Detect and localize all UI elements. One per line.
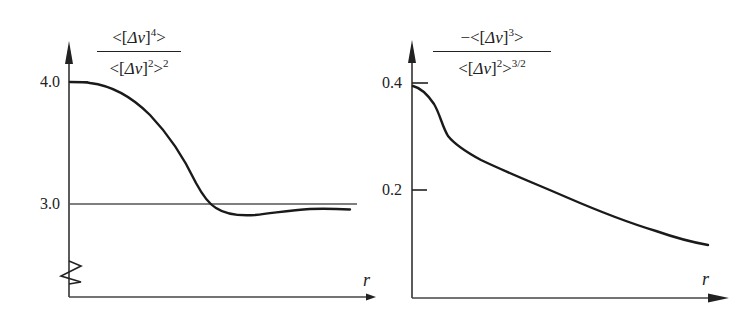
axis-break-icon (61, 261, 81, 284)
flatness-y-label: <[Δv]4> <[Δv]2>2 (97, 27, 181, 77)
x-axis-arrow-icon (366, 294, 376, 301)
y-axis-arrow-icon (408, 40, 416, 63)
x-axis-label: r (702, 270, 709, 288)
tick-label-0-2: 0.2 (382, 182, 402, 198)
flatness-denominator: <[Δv]2>2 (97, 58, 181, 77)
flatness-numerator: <[Δv]4> (97, 27, 181, 46)
skewness-chart: 0.4 0.2 r −<[Δv]3> <[Δv]2>3/2 (376, 0, 752, 319)
fraction-bar (433, 51, 551, 52)
flatness-curve (70, 82, 350, 215)
skewness-denominator: <[Δv]2>3/2 (433, 58, 551, 77)
tick-label-0-4: 0.4 (382, 75, 402, 91)
fraction-bar (97, 51, 181, 52)
flatness-chart: 4.0 3.0 r <[Δv]4> <[Δv]2>2 (0, 0, 376, 319)
skewness-y-label: −<[Δv]3> <[Δv]2>3/2 (433, 27, 551, 77)
skewness-numerator: −<[Δv]3> (433, 27, 551, 46)
y-axis-arrow-icon (65, 41, 73, 64)
tick-label-4: 4.0 (40, 74, 60, 90)
x-axis-label: r (363, 271, 370, 289)
skewness-curve (413, 86, 708, 245)
flatness-plot-area (0, 0, 376, 319)
tick-label-3: 3.0 (40, 196, 60, 212)
x-axis-arrow-icon (708, 294, 729, 303)
